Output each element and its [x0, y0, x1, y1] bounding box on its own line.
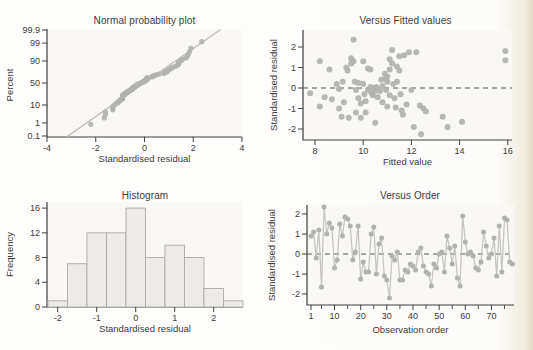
tick-label: 99.9 [22, 25, 40, 35]
data-point [393, 104, 399, 110]
data-point [502, 48, 508, 54]
panel-versus-order: -2-1012110203040506070Observation orderS… [266, 175, 532, 350]
data-point [418, 246, 423, 251]
data-point [384, 278, 389, 283]
tick-label: 4 [35, 277, 40, 287]
tick-label: 90 [30, 56, 40, 66]
panel-normal-probability-plot: 0.111050909999.9-4-2024Standardised resi… [0, 0, 266, 175]
panel-histogram: 0481216-2-1012Standardised residualFrequ… [0, 175, 266, 350]
tick-label: 2 [191, 143, 196, 153]
tick-label: -2 [54, 313, 62, 323]
tick-label: -2 [292, 289, 300, 299]
data-point [405, 270, 410, 275]
histogram-bar [67, 264, 87, 307]
chart-title: Histogram [47, 190, 243, 202]
tick-label: 50 [30, 78, 40, 88]
data-point [418, 131, 424, 137]
data-point [481, 230, 486, 235]
data-point [341, 99, 347, 105]
data-point [395, 250, 400, 255]
data-point [398, 91, 404, 97]
tick-label: 40 [408, 311, 418, 321]
tick-label: 16 [503, 146, 513, 156]
x-axis-label: Observation order [372, 324, 448, 335]
tick-label: 12 [30, 228, 40, 238]
data-point [423, 109, 429, 115]
chart-title: Versus Fitted values [303, 15, 508, 27]
tick-label: 10 [330, 311, 340, 321]
data-point [408, 87, 414, 93]
data-point [332, 266, 337, 271]
data-point [455, 276, 460, 281]
data-point [351, 58, 357, 64]
data-point [322, 205, 327, 210]
data-point [494, 274, 499, 279]
tick-label: 8 [35, 253, 40, 263]
y-axis-label: Standardised residual [268, 39, 279, 131]
data-point [411, 124, 417, 130]
histogram-bar [184, 258, 204, 307]
data-point [429, 284, 434, 289]
data-point [389, 47, 395, 53]
tick-label: 1 [295, 229, 300, 239]
data-point [489, 252, 494, 257]
tick-label: -1 [292, 269, 300, 279]
x-axis-label: Fitted value [383, 156, 432, 167]
data-point [384, 103, 390, 109]
chart-title: Normal probability plot [47, 15, 242, 27]
x-axis: -4-2024 [43, 137, 245, 153]
data-point [372, 120, 378, 126]
y-axis: -2-1012 [292, 209, 307, 299]
tick-label: 0 [142, 143, 147, 153]
histogram-bar [106, 233, 126, 307]
data-point [413, 49, 419, 55]
data-point [336, 86, 342, 92]
data-point [334, 81, 340, 87]
data-point [452, 244, 457, 249]
data-point [340, 79, 346, 85]
tick-label: 70 [486, 311, 496, 321]
tick-label: 0 [291, 83, 296, 93]
data-point [404, 101, 410, 107]
tick-label: 2 [295, 209, 300, 219]
data-point [366, 270, 371, 275]
y-axis-label: Percent [4, 68, 15, 101]
data-point [426, 272, 431, 277]
data-point [311, 230, 316, 235]
data-point [199, 39, 204, 44]
histogram-bar [165, 245, 185, 307]
data-point [326, 67, 332, 73]
data-point [379, 99, 385, 105]
data-point [316, 228, 321, 233]
data-point [447, 246, 452, 251]
data-point [421, 264, 426, 269]
data-point [363, 110, 369, 116]
data-point [335, 258, 340, 263]
data-point [339, 114, 345, 120]
data-point [355, 95, 361, 101]
y-axis: -2-1012 [288, 42, 303, 134]
data-point [392, 95, 398, 101]
data-point [157, 72, 162, 77]
data-point [367, 67, 373, 73]
data-point [345, 68, 351, 74]
data-point [353, 87, 359, 93]
tick-label: 0 [295, 249, 300, 259]
data-point [384, 74, 390, 80]
data-point [327, 221, 332, 226]
tick-label: 0 [35, 302, 40, 312]
histogram-bar [126, 208, 146, 307]
tick-label: 2 [291, 42, 296, 52]
tick-label: 0 [133, 313, 138, 323]
data-point [394, 79, 400, 85]
data-point [340, 234, 345, 239]
data-point [476, 268, 481, 273]
data-point [383, 87, 389, 93]
data-point [400, 112, 406, 118]
tick-label: 2 [211, 313, 216, 323]
data-point [353, 110, 359, 116]
data-point [492, 236, 497, 241]
data-point [322, 94, 328, 100]
data-point [307, 90, 313, 96]
data-point [358, 277, 363, 282]
